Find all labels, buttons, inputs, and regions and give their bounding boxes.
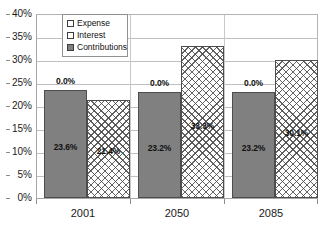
legend-label-expense: Expense: [77, 19, 110, 28]
xtick-right: [317, 199, 318, 204]
legend-swatch-expense-icon: [67, 20, 74, 27]
legend-item-expense: Expense: [67, 18, 124, 29]
ylabel-25: 25%: [0, 78, 32, 88]
datalabel-2050-expense: 0.0%: [138, 79, 181, 88]
category-separator-2: [224, 15, 225, 198]
datalabel-2085-interest: 30.1%: [275, 129, 318, 138]
datalabel-2001-interest: 21.4%: [87, 147, 130, 156]
datalabel-2001-expense: 0.0%: [44, 77, 87, 86]
ylabel-20: 20%: [0, 101, 32, 111]
legend: Expense Interest Contributions: [62, 14, 128, 57]
bar-chart: 0.0% 23.6% 21.4% 0.0% 23.2% 33.3% 0.0% 2…: [0, 0, 328, 232]
ylabel-5: 5%: [0, 170, 32, 180]
legend-swatch-interest-icon: [67, 32, 74, 39]
ylabel-40: 40%: [0, 9, 32, 19]
ylabel-10: 10%: [0, 147, 32, 157]
datalabel-2001-contributions: 23.6%: [44, 143, 87, 152]
legend-item-contributions: Contributions: [67, 42, 124, 53]
ylabel-35: 35%: [0, 32, 32, 42]
legend-item-interest: Interest: [67, 30, 124, 41]
datalabel-2085-contributions: 23.2%: [232, 144, 275, 153]
xlabel-2050: 2050: [130, 207, 224, 219]
datalabel-2050-interest: 33.3%: [181, 122, 224, 131]
xtick-2: [224, 199, 225, 204]
ylabel-15: 15%: [0, 124, 32, 134]
legend-label-contributions: Contributions: [77, 43, 127, 52]
datalabel-2050-contributions: 23.2%: [138, 144, 181, 153]
ylabel-0: 0%: [0, 193, 32, 203]
xlabel-2085: 2085: [224, 207, 318, 219]
legend-label-interest: Interest: [77, 31, 105, 40]
xtick-1: [130, 199, 131, 204]
category-separator-1: [130, 15, 131, 198]
ylabel-30: 30%: [0, 55, 32, 65]
datalabel-2085-expense: 0.0%: [232, 79, 275, 88]
xlabel-2001: 2001: [36, 207, 130, 219]
legend-swatch-contributions-icon: [67, 44, 74, 51]
xtick-left: [36, 199, 37, 204]
